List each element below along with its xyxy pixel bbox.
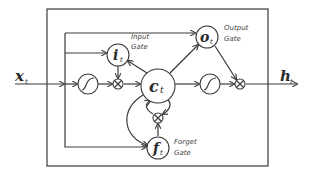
forget-gate-label-2: Gate bbox=[174, 149, 191, 157]
peephole-output bbox=[170, 45, 198, 73]
input-gate-label-2: Gate bbox=[131, 43, 148, 51]
svg-text:x: x bbox=[14, 67, 25, 85]
output-gate-label: Output bbox=[224, 24, 249, 32]
cell-state-node: c t bbox=[141, 69, 175, 103]
multiply-input-node bbox=[113, 79, 123, 89]
svg-text:i: i bbox=[113, 47, 118, 63]
svg-text:t: t bbox=[25, 78, 28, 86]
output-gate-arrow bbox=[215, 46, 236, 79]
peephole-forget bbox=[127, 95, 147, 145]
lstm-diagram: i t Input Gate c t o t Output Gate f t F… bbox=[0, 0, 313, 171]
multiply-output-node bbox=[235, 79, 245, 89]
multiply-forget-node bbox=[153, 113, 163, 123]
tanh-output-node bbox=[200, 74, 220, 94]
peephole-input bbox=[128, 61, 147, 73]
svg-text:t: t bbox=[160, 149, 163, 157]
tanh-input-node bbox=[78, 74, 98, 94]
svg-text:t: t bbox=[120, 56, 123, 64]
svg-text:o: o bbox=[200, 29, 209, 45]
input-gate-label: Input bbox=[131, 33, 149, 41]
svg-text:t: t bbox=[210, 38, 213, 46]
forget-gate-node: f t bbox=[147, 137, 169, 159]
svg-text:t: t bbox=[160, 85, 164, 95]
input-gate-node: i t bbox=[107, 44, 129, 66]
self-loop-in bbox=[146, 101, 153, 114]
output-gate-node: o t bbox=[196, 26, 218, 48]
output-gate-label-2: Gate bbox=[224, 35, 241, 43]
svg-text:t: t bbox=[290, 78, 293, 86]
forget-gate-label: Forget bbox=[174, 138, 197, 146]
input-label: x t bbox=[14, 67, 28, 86]
output-label: h t bbox=[280, 67, 293, 86]
svg-text:c: c bbox=[149, 77, 159, 96]
